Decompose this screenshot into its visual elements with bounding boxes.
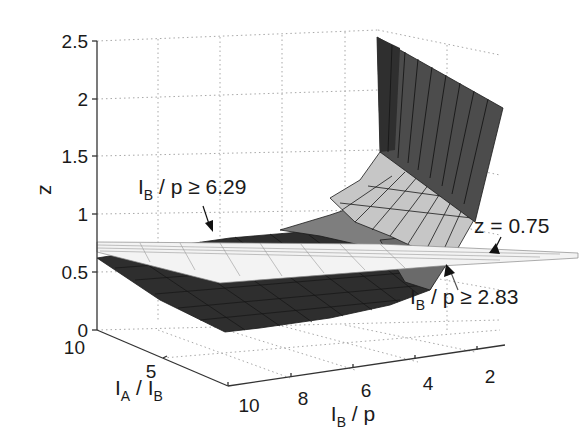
ib-p-tick-10: 10 bbox=[238, 395, 259, 416]
ib-p-tick-4: 4 bbox=[423, 373, 434, 394]
annotation-ib-p-2.83: IB / p ≥ 2.83 bbox=[410, 285, 518, 313]
arrow-6.29 bbox=[203, 206, 213, 232]
ib-p-axis-label: IB / p bbox=[331, 402, 375, 430]
z-tick-2.5: 2.5 bbox=[62, 31, 88, 52]
z-tick-1: 1 bbox=[77, 204, 88, 225]
ib-p-tick-8: 8 bbox=[298, 388, 309, 409]
ib-p-tick-2: 2 bbox=[485, 366, 496, 387]
z-axis-label: z bbox=[36, 185, 59, 196]
z-tick-labels: 2.5 2 1.5 1 0.5 0 bbox=[62, 31, 88, 341]
ia-ib-tick-10: 10 bbox=[64, 337, 85, 358]
z-tick-1.5: 1.5 bbox=[62, 146, 88, 167]
z-tick-2: 2 bbox=[77, 89, 88, 110]
annotation-z-0.75: z = 0.75 bbox=[474, 214, 549, 237]
ib-p-tick-6: 6 bbox=[361, 380, 372, 401]
z-tick-0.5: 0.5 bbox=[62, 262, 88, 283]
annotation-ib-p-6.29: IB / p ≥ 6.29 bbox=[138, 175, 246, 203]
surface-chart: 2.5 2 1.5 1 0.5 0 10 5 10 8 6 4 2 z IA /… bbox=[0, 0, 580, 434]
